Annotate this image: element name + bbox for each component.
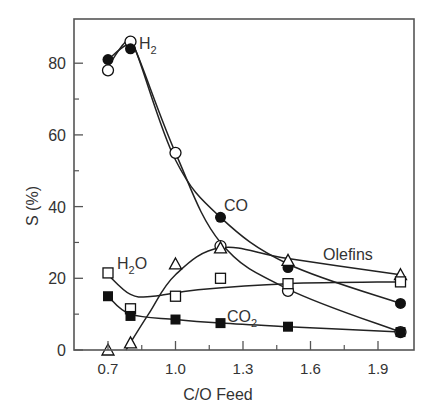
x-tick-label: 1.9 [368,360,389,377]
series-label-olefins: Olefins [323,246,373,263]
marker-co [125,43,136,54]
marker-h2o [283,279,293,289]
y-tick-label: 60 [48,127,66,144]
curve-co [108,38,401,303]
fit-curves [108,37,401,350]
y-tick-label: 40 [48,199,66,216]
y-axis-label: S (%) [24,186,41,226]
marker-h2o [396,277,406,287]
x-tick-label: 0.7 [98,360,119,377]
marker-co2 [171,315,181,325]
marker-co2 [216,318,226,328]
series-label-h2o: H2O [117,255,147,276]
x-tick-label: 1.6 [300,360,321,377]
x-axis-label: C/O Feed [183,386,252,403]
series-label-h2: H2 [139,35,157,56]
series-label-co2: CO2 [227,308,257,329]
marker-co [395,298,406,309]
marker-co2 [103,291,113,301]
marker-h2o [103,268,113,278]
chart-container: 0.71.01.31.61.9020406080 H2COOlefinsH2OC… [0,0,433,414]
curve-h2o [108,275,401,297]
marker-h2 [103,65,114,76]
curve-h2 [108,37,401,333]
marker-co2 [283,322,293,332]
plot-frame [74,19,414,350]
series-labels: H2COOlefinsH2OCO2 [117,35,373,329]
marker-h2o [171,291,181,301]
marker-olefins [170,258,182,269]
marker-olefins [125,337,137,348]
marker-co2 [396,327,406,337]
plot-border [74,19,414,350]
x-tick-label: 1.3 [233,360,254,377]
marker-co [103,54,114,65]
y-tick-label: 80 [48,55,66,72]
x-tick-label: 1.0 [165,360,186,377]
series-label-co: CO [224,197,248,214]
marker-h2o [216,273,226,283]
y-tick-label: 0 [57,342,66,359]
marker-h2 [170,147,181,158]
marker-co2 [126,311,136,321]
y-tick-label: 20 [48,270,66,287]
selectivity-chart: 0.71.01.31.61.9020406080 H2COOlefinsH2OC… [0,0,433,414]
